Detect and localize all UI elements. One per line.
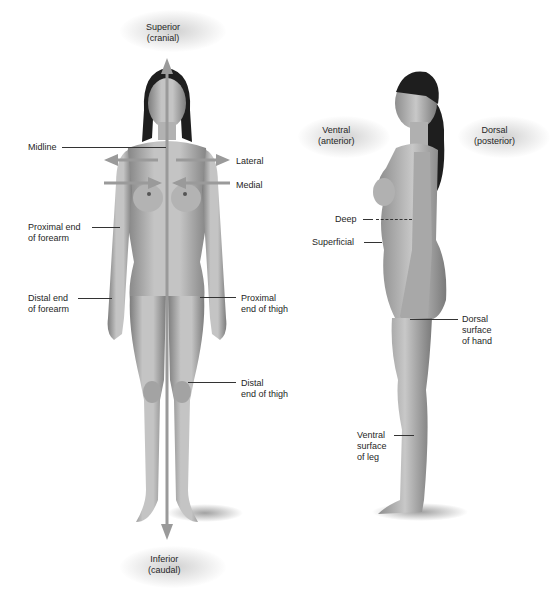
deep-leader	[363, 219, 373, 220]
midline-text: Midline	[28, 142, 57, 153]
superficial-label: Superficial	[312, 237, 354, 248]
midline-leader	[62, 147, 166, 148]
proximal-forearm-line1: Proximal end	[28, 222, 81, 233]
deep-dashed-line	[376, 219, 412, 220]
dorsal-hand-label: Dorsal surface of hand	[462, 314, 492, 347]
medial-text: Medial	[236, 180, 263, 191]
ventral-label: Ventral (anterior)	[318, 125, 355, 147]
proximal-thigh-line1: Proximal	[241, 293, 288, 304]
distal-forearm-line1: Distal end	[28, 293, 69, 304]
superior-text: Superior	[146, 22, 180, 33]
distal-forearm-line2: of forearm	[28, 304, 69, 315]
deep-text: Deep	[335, 214, 357, 225]
ventral-leg-label: Ventral surface of leg	[357, 430, 387, 463]
ventral-leg-line1: Ventral	[357, 430, 387, 441]
deep-label: Deep	[335, 214, 357, 225]
ventral-text: Ventral	[318, 125, 355, 136]
anterior-text: (anterior)	[318, 136, 355, 147]
superficial-text: Superficial	[312, 237, 354, 248]
distal-forearm-leader	[78, 298, 112, 299]
dorsal-label: Dorsal (posterior)	[474, 125, 515, 147]
proximal-forearm-label: Proximal end of forearm	[28, 222, 81, 244]
midline-label: Midline	[28, 142, 57, 153]
inferior-text: Inferior	[148, 554, 181, 565]
medial-label: Medial	[236, 180, 263, 191]
ventral-leg-line2: surface	[357, 441, 387, 452]
ventral-leg-line3: of leg	[357, 452, 387, 463]
proximal-forearm-leader	[92, 227, 120, 228]
inferior-label: Inferior (caudal)	[148, 554, 181, 576]
lateral-text: Lateral	[236, 156, 264, 167]
distal-forearm-label: Distal end of forearm	[28, 293, 69, 315]
distal-thigh-line2: end of thigh	[241, 389, 288, 400]
distal-thigh-line1: Distal	[241, 378, 288, 389]
lateral-label: Lateral	[236, 156, 264, 167]
caudal-text: (caudal)	[148, 565, 181, 576]
dorsal-hand-line2: surface	[462, 325, 492, 336]
superficial-leader	[364, 242, 382, 243]
posterior-text: (posterior)	[474, 136, 515, 147]
distal-thigh-label: Distal end of thigh	[241, 378, 288, 400]
superior-label: Superior (cranial)	[146, 22, 180, 44]
distal-thigh-leader	[188, 382, 236, 383]
dorsal-text: Dorsal	[474, 125, 515, 136]
cranial-text: (cranial)	[146, 33, 180, 44]
dorsal-hand-line1: Dorsal	[462, 314, 492, 325]
proximal-thigh-leader	[200, 297, 236, 298]
anterior-figure	[104, 58, 243, 540]
proximal-forearm-line2: of forearm	[28, 233, 81, 244]
dorsal-hand-line3: of hand	[462, 336, 492, 347]
ventral-leg-leader	[394, 435, 414, 436]
dorsal-hand-leader	[410, 319, 458, 320]
proximal-thigh-label: Proximal end of thigh	[241, 293, 288, 315]
proximal-thigh-line2: end of thigh	[241, 304, 288, 315]
